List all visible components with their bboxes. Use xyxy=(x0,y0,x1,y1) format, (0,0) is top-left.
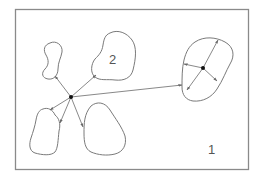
diagram-canvas: 2 1 xyxy=(0,0,261,178)
region-label-1: 1 xyxy=(208,142,215,157)
right-center-node xyxy=(201,66,205,70)
left-center-node xyxy=(69,95,73,99)
region-label-2: 2 xyxy=(109,52,116,67)
